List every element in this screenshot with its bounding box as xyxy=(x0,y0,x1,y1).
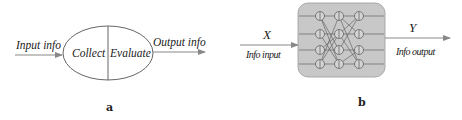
output-info-label: Output info xyxy=(153,36,206,49)
panel-a: Input info Collect Evaluate Output info … xyxy=(15,26,206,114)
info-input-label: Info input xyxy=(245,49,281,60)
caption-a: a xyxy=(106,101,113,114)
info-output-label: Info output xyxy=(395,46,435,57)
collect-label: Collect xyxy=(72,47,106,59)
output-symbol-y: Y xyxy=(409,20,418,35)
input-symbol-x: X xyxy=(262,27,272,42)
diagram-canvas: Input info Collect Evaluate Output info … xyxy=(0,0,462,120)
evaluate-label: Evaluate xyxy=(109,47,151,59)
panel-b: X Info input xyxy=(240,3,450,109)
caption-b: b xyxy=(358,96,366,109)
input-info-label: Input info xyxy=(15,39,61,52)
